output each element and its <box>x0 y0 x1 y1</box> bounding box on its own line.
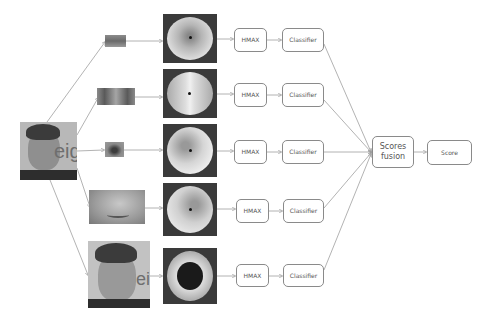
log-polar-image-1 <box>163 14 217 63</box>
fusion-label-line1: Scores <box>380 142 407 152</box>
scores-fusion-box: Scores fusion <box>372 136 414 168</box>
crop-eye-strip <box>105 35 126 47</box>
hmax-box-1: HMAX <box>234 28 267 52</box>
fusion-label-line2: fusion <box>381 152 405 162</box>
log-polar-image-2 <box>163 69 217 118</box>
log-polar-image-4 <box>163 183 217 236</box>
crop-both-eyes <box>97 88 135 105</box>
crop-whole-face: ei <box>88 241 150 308</box>
classifier-box-3: Classifier <box>282 140 324 164</box>
log-polar-image-3 <box>163 124 217 177</box>
hmax-box-3: HMAX <box>234 140 267 164</box>
crop-single-eye <box>105 142 124 157</box>
classifier-box-4: Classifier <box>283 199 324 223</box>
classifier-box-5: Classifier <box>283 264 324 287</box>
log-polar-image-5 <box>163 248 217 304</box>
score-box: Score <box>427 140 472 165</box>
classifier-box-2: Classifier <box>282 83 324 107</box>
pipeline-diagram: eigr ei HMAX HMAX HMAX HMAX HMAX <box>0 0 490 323</box>
crop-nose-mouth <box>89 190 145 224</box>
hmax-box-2: HMAX <box>234 83 267 107</box>
hmax-box-4: HMAX <box>236 199 269 223</box>
logo-fragment: eigr <box>54 140 77 163</box>
input-face-image: eigr <box>20 122 77 180</box>
hmax-box-5: HMAX <box>236 264 269 287</box>
classifier-box-1: Classifier <box>282 28 324 52</box>
